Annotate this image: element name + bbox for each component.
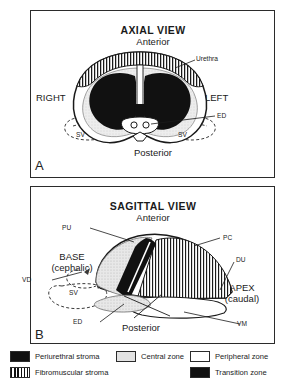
sagittal-pc-leader — [194, 238, 220, 246]
sagittal-vm-callout: VM — [237, 320, 247, 327]
sagittal-pu-callout: PU — [62, 224, 71, 231]
axial-ejaculatory-duct-right — [131, 122, 137, 128]
legend-label-fibromuscular-stroma: Fibromuscular stroma — [35, 368, 108, 377]
legend-swatch-central-zone — [116, 351, 136, 362]
axial-view-title: AXIAL VIEW — [78, 24, 228, 36]
legend-label-peripheral-zone: Peripheral zone — [215, 352, 268, 361]
sagittal-ed-callout: ED — [73, 318, 82, 325]
legend: Periurethral stroma Fibromuscular stroma… — [4, 350, 277, 382]
sagittal-section-drawing — [38, 218, 268, 330]
legend-item-periurethral-stroma: Periurethral stroma — [10, 351, 100, 362]
panel-a-letter: A — [35, 158, 44, 173]
legend-label-transition-zone: Transition zone — [215, 368, 267, 377]
axial-ed-callout: ED — [217, 112, 226, 119]
sagittal-vd-callout: VD — [22, 276, 31, 283]
legend-item-transition-zone: Transition zone — [190, 367, 267, 378]
axial-ejaculatory-duct-left — [143, 122, 149, 128]
sagittal-view-title: SAGITTAL VIEW — [78, 200, 228, 212]
legend-item-peripheral-zone: Peripheral zone — [190, 351, 268, 362]
axial-sv-right-callout: SV — [76, 131, 85, 138]
axial-sv-left-callout: SV — [178, 131, 187, 138]
legend-item-central-zone: Central zone — [116, 351, 184, 362]
sagittal-sv-callout: SV — [69, 289, 78, 296]
legend-swatch-transition-zone — [190, 367, 210, 378]
axial-ejaculatory-duct-region — [121, 117, 158, 134]
sagittal-du-callout: DU — [236, 256, 246, 263]
legend-label-central-zone: Central zone — [141, 352, 184, 361]
legend-swatch-periurethral-stroma — [10, 351, 30, 362]
legend-label-periurethral-stroma: Periurethral stroma — [35, 352, 100, 361]
prostate-zonal-anatomy-figure: A AXIAL VIEW Anterior Posterior RIGHT LE… — [0, 0, 281, 384]
axial-cross-section-drawing — [55, 46, 225, 156]
sagittal-pc-callout: PC — [223, 234, 232, 241]
legend-swatch-peripheral-zone — [190, 351, 210, 362]
sagittal-pu-leader — [90, 228, 134, 242]
legend-swatch-fibromuscular-stroma — [10, 367, 30, 378]
legend-item-fibromuscular-stroma: Fibromuscular stroma — [10, 367, 108, 378]
axial-urethra-callout: Urethra — [196, 55, 218, 62]
